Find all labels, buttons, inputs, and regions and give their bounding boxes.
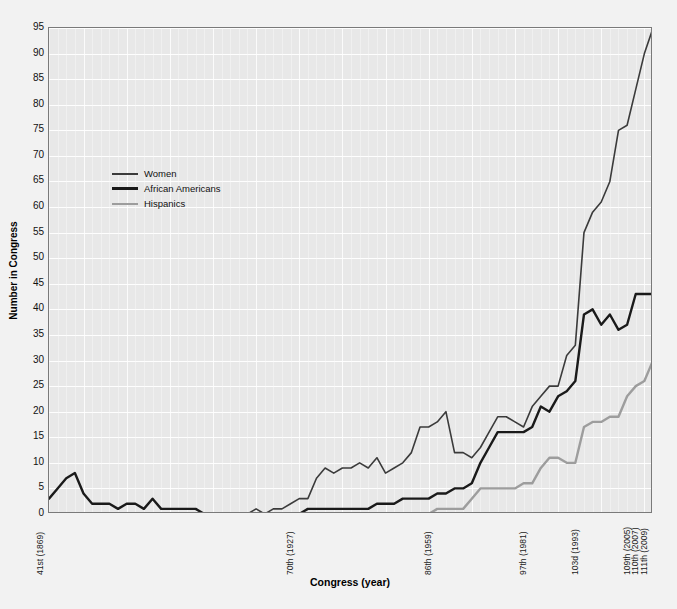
y-axis-tick-label: 90: [0, 48, 44, 58]
series-svg: [49, 28, 652, 513]
series-line: [49, 294, 652, 513]
legend-swatch: [112, 187, 138, 190]
x-axis-tick-label: 41st (1869): [36, 532, 45, 575]
x-axis-tick-label: 86th (1959): [424, 532, 433, 575]
y-axis-tick-label: 45: [0, 278, 44, 288]
chart-figure: Number in Congress 051015202530354045505…: [0, 0, 677, 609]
y-axis-tick-label: 95: [0, 22, 44, 32]
x-axis-tick-labels: 41st (1869)70th (1927)86th (1959)97th (1…: [48, 517, 652, 575]
x-axis-title: Congress (year): [48, 576, 652, 588]
legend-swatch: [112, 203, 138, 205]
y-axis-tick-label: 35: [0, 329, 44, 339]
legend-label: Hispanics: [144, 198, 185, 209]
legend-item: Women: [112, 166, 221, 181]
x-axis-tick-label: 111th (2009): [640, 528, 649, 575]
y-axis-tick-label: 80: [0, 99, 44, 109]
plot-area: WomenAfrican AmericansHispanics: [48, 27, 652, 513]
y-axis-tick-label: 0: [0, 508, 44, 518]
series-line: [49, 361, 652, 513]
series-line: [49, 28, 652, 513]
legend-swatch: [112, 173, 138, 175]
y-axis-tick-label: 30: [0, 355, 44, 365]
y-axis-tick-label: 65: [0, 175, 44, 185]
y-axis-tick-label: 75: [0, 124, 44, 134]
legend-item: Hispanics: [112, 196, 221, 211]
y-axis-tick-labels: 05101520253035404550556065707580859095: [0, 27, 44, 513]
legend-item: African Americans: [112, 181, 221, 196]
y-axis-tick-label: 15: [0, 431, 44, 441]
y-axis-tick-label: 25: [0, 380, 44, 390]
legend-label: Women: [144, 168, 177, 179]
x-axis-tick-label: 70th (1927): [286, 532, 295, 575]
legend-label: African Americans: [144, 183, 221, 194]
y-axis-tick-label: 60: [0, 201, 44, 211]
x-axis-tick-label: 103d (1993): [571, 529, 580, 575]
x-axis-tick-label: 97th (1981): [519, 532, 528, 575]
y-axis-tick-label: 5: [0, 482, 44, 492]
y-axis-tick-label: 20: [0, 406, 44, 416]
y-axis-tick-label: 50: [0, 252, 44, 262]
y-axis-tick-label: 70: [0, 150, 44, 160]
y-axis-tick-label: 85: [0, 73, 44, 83]
chart-legend: WomenAfrican AmericansHispanics: [112, 166, 221, 211]
series-layer: [49, 28, 651, 512]
y-axis-tick-label: 55: [0, 227, 44, 237]
y-axis-tick-label: 40: [0, 303, 44, 313]
y-axis-tick-label: 10: [0, 457, 44, 467]
